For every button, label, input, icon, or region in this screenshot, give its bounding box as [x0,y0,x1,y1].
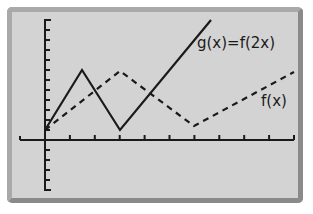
label-f: f(x) [261,92,287,110]
series-f-dashed [45,71,294,130]
label-g: g(x)=f(2x) [197,34,275,52]
y-axis [45,19,51,191]
x-axis [20,135,294,140]
series-g-solid [45,20,211,130]
function-graph: g(x)=f(2x) f(x) [0,0,313,214]
